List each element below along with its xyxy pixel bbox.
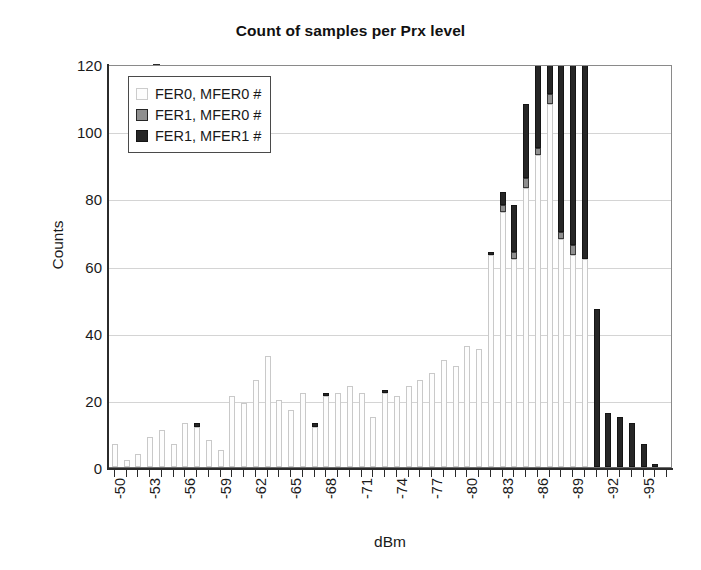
y-tick-label: 100 [58,124,102,141]
bar-segment [523,188,529,467]
bar-column [464,65,470,467]
bar-segment [500,212,506,467]
bar-segment [464,346,470,467]
y-axis-line [107,64,109,470]
x-tick-label: -65 [288,478,304,499]
x-tick-mark [596,470,597,477]
x-tick-label: -50 [112,478,128,499]
bar-segment [300,393,306,467]
x-tick-mark [361,470,362,477]
bar-segment [570,65,576,245]
x-tick-mark [290,470,291,477]
bar-segment [500,192,506,205]
x-tick-mark [619,470,620,477]
chart-legend: FER0, MFER0 #FER1, MFER0 #FER1, MFER1 # [128,76,271,153]
bar-column [441,65,447,467]
x-tick-mark [631,470,632,477]
bar-segment [535,148,541,155]
x-tick-mark [666,470,667,477]
bar-segment [511,252,517,259]
bar-column [323,65,329,467]
bar-column [347,65,353,467]
bar-column [429,65,435,467]
x-tick-mark [220,470,221,477]
x-tick-mark [137,470,138,477]
bar-segment [112,444,118,468]
bar-column [276,65,282,467]
bar-segment [523,104,529,178]
x-axis-title: dBm [108,533,672,551]
x-tick-label: -62 [253,478,269,499]
x-tick-mark [314,470,315,477]
y-tick-label: 60 [58,258,102,275]
bar-segment [194,427,200,467]
x-tick-mark [384,470,385,477]
x-tick-mark [490,470,491,477]
legend-label: FER1, MFER0 # [155,107,261,123]
bar-column [335,65,341,467]
x-tick-mark [278,470,279,477]
x-tick-mark [431,470,432,477]
x-tick-mark [231,470,232,477]
bar-segment [276,400,282,467]
bar-segment [558,232,564,239]
x-tick-mark [372,470,373,477]
bar-segment [312,427,318,467]
x-tick-mark [654,470,655,477]
bar-segment [288,410,294,467]
x-tick-label: -86 [535,478,551,499]
x-tick-mark [161,470,162,477]
legend-label: FER0, MFER0 # [155,86,261,102]
bar-column [523,65,529,467]
x-tick-label: -80 [464,478,480,499]
bar-segment [535,65,541,148]
bar-segment [323,396,329,467]
bar-segment [182,423,188,467]
bar-segment [429,373,435,467]
bar-segment [124,460,130,467]
bar-column [406,65,412,467]
bar-column [417,65,423,467]
legend-item[interactable]: FER0, MFER0 # [136,83,261,104]
x-tick-mark [114,470,115,477]
bar-column [535,65,541,467]
x-tick-label: -68 [323,478,339,499]
x-tick-label: -53 [147,478,163,499]
x-tick-mark [408,470,409,477]
bar-column [300,65,306,467]
legend-item[interactable]: FER1, MFER0 # [136,104,261,125]
bar-segment [206,440,212,467]
x-tick-label: -71 [359,478,375,499]
bar-column [558,65,564,467]
y-tick-label: 40 [58,325,102,342]
bar-segment [159,430,165,467]
bar-column [453,65,459,467]
bar-segment [605,413,611,467]
x-tick-mark [478,470,479,477]
x-tick-label: -95 [641,478,657,499]
bar-segment [547,65,553,94]
bar-segment [370,417,376,467]
bar-segment [594,309,600,467]
bar-column [570,65,576,467]
bar-segment [453,366,459,467]
bar-column [582,65,588,467]
x-tick-mark [126,470,127,477]
legend-item[interactable]: FER1, MFER1 # [136,125,261,146]
x-tick-mark [572,470,573,477]
bar-segment [641,444,647,468]
legend-swatch-icon [136,109,148,121]
bar-column [288,65,294,467]
bar-segment [570,245,576,255]
x-tick-mark [302,470,303,477]
bar-segment [347,386,353,467]
x-tick-label: -56 [182,478,198,499]
x-tick-mark [455,470,456,477]
bar-segment [253,380,259,467]
bar-segment [194,423,200,426]
bar-segment [382,390,388,393]
bar-segment [394,396,400,467]
x-tick-label: -89 [570,478,586,499]
x-axis-line [107,468,673,470]
x-tick-mark [537,470,538,477]
